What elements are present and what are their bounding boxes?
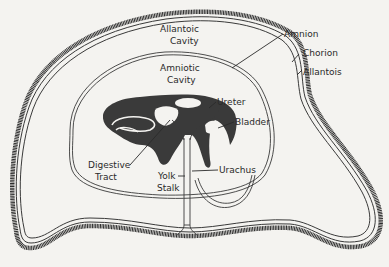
yolk-stalk-label: Yolk — [157, 171, 176, 181]
yolk-stalk-label-2: Stalk — [157, 183, 180, 193]
amniotic-cavity-label: Amniotic — [160, 63, 200, 73]
amniotic-cavity-label-2: Cavity — [167, 75, 196, 85]
allantois-label: Allantois — [303, 67, 342, 77]
digestive-tract-label: Digestive — [88, 160, 131, 170]
chorion-label: Chorion — [303, 48, 338, 58]
bladder-label: Bladder — [235, 117, 270, 127]
ureter-label: Ureter — [217, 97, 246, 107]
digestive-tract-label-2: Tract — [94, 172, 117, 182]
allantoic-cavity-label-2: Cavity — [170, 36, 199, 46]
amnion-label: Amnion — [284, 29, 318, 39]
allantois-sac — [195, 175, 255, 208]
allantoic-cavity-label: Allantoic — [160, 24, 199, 34]
embryo-membranes-diagram: Allantoic Cavity Amniotic Cavity Amnion … — [0, 0, 389, 267]
urachus-label: Urachus — [219, 165, 256, 175]
